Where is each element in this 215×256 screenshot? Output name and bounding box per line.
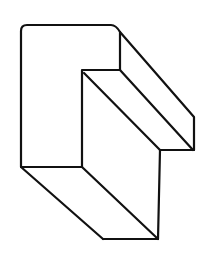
bottom-inner-diagonal [82,167,158,239]
outer-front-outline [21,25,120,167]
step-inner-diagonal [120,70,193,150]
bottom-left-diagonal [21,167,103,239]
stepped-block-drawing [0,0,215,256]
top-right-diagonal-edge [120,32,194,150]
step-lower-diagonal [84,73,160,150]
right-lower-vertical [158,150,160,239]
